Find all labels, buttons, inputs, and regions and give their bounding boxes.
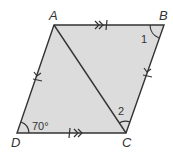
parallelogram-diagram: A B C D 70° 1 2 bbox=[0, 0, 173, 152]
vertex-label-c: C bbox=[122, 135, 132, 150]
angle-d-label: 70° bbox=[32, 120, 49, 132]
vertex-label-d: D bbox=[11, 135, 20, 150]
vertex-label-b: B bbox=[159, 8, 168, 23]
angle-b-label: 1 bbox=[141, 33, 147, 45]
vertex-label-a: A bbox=[48, 8, 58, 23]
angle-c-label: 2 bbox=[118, 105, 124, 117]
